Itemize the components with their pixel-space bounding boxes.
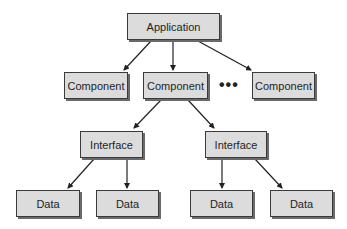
node-label: Data	[290, 198, 313, 210]
node-label: Component	[147, 80, 204, 92]
component-node-1: Component	[64, 72, 128, 99]
ellipsis: •••	[219, 76, 239, 94]
arrow-application-to-component-1	[124, 41, 151, 70]
node-label: Component	[255, 80, 312, 92]
arrow-component-2-to-interface-2	[188, 100, 214, 128]
node-label: Application	[147, 21, 201, 33]
application-node: Application	[127, 13, 220, 40]
node-label: Data	[210, 198, 233, 210]
data-node-1: Data	[16, 190, 80, 217]
data-node-2: Data	[96, 190, 159, 217]
node-label: Component	[68, 80, 125, 92]
component-node-3: Component	[252, 72, 315, 99]
interface-node-1: Interface	[80, 131, 143, 158]
arrow-application-to-component-3	[198, 41, 251, 70]
arrow-interface-2-to-data-4	[255, 159, 282, 188]
node-label: Interface	[90, 139, 133, 151]
arrow-interface-1-to-data-1	[68, 159, 94, 188]
node-label: Data	[116, 198, 139, 210]
data-node-4: Data	[270, 190, 333, 217]
arrow-component-2-to-interface-1	[134, 100, 161, 128]
data-node-3: Data	[190, 190, 253, 217]
interface-node-2: Interface	[205, 131, 267, 158]
component-node-2: Component	[143, 72, 208, 99]
node-label: Data	[36, 198, 59, 210]
node-label: Interface	[215, 139, 258, 151]
